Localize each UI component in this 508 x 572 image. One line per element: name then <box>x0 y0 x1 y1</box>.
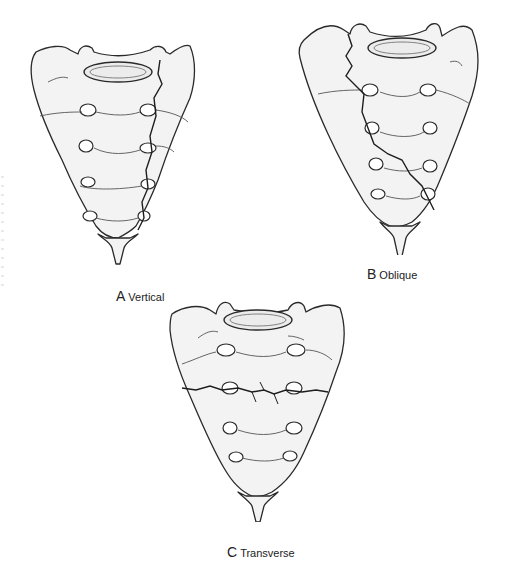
caption-b-letter: B <box>367 266 376 282</box>
sacrum-oblique-fracture-illustration <box>284 10 484 255</box>
panel-c-transverse <box>160 292 350 522</box>
caption-b: BOblique <box>367 265 417 283</box>
scan-edge-mark <box>1 176 4 286</box>
sacrum-transverse-fracture-illustration <box>160 292 350 522</box>
caption-a-letter: A <box>116 288 125 304</box>
caption-c-label: Transverse <box>240 547 295 559</box>
caption-a: AVertical <box>116 287 164 305</box>
caption-b-label: Oblique <box>379 269 417 281</box>
sacrum-vertical-fracture-illustration <box>18 40 198 280</box>
panel-a-vertical <box>18 40 198 280</box>
caption-c: CTransverse <box>227 543 295 561</box>
panel-b-oblique <box>284 10 484 255</box>
caption-c-letter: C <box>227 544 237 560</box>
caption-a-label: Vertical <box>128 291 164 303</box>
